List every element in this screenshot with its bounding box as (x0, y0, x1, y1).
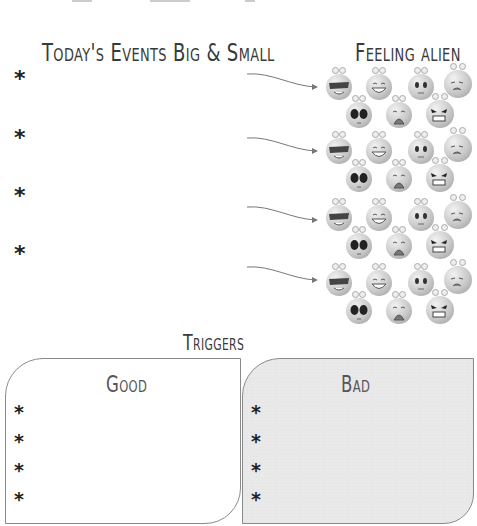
good-label: Good (106, 371, 147, 397)
alien-crying-icon[interactable] (386, 102, 412, 128)
event-bullet-4[interactable]: * (14, 243, 26, 265)
alien-angry-icon[interactable] (426, 231, 454, 259)
alien-crying-icon[interactable] (386, 233, 412, 259)
alien-sad-icon[interactable] (444, 266, 472, 294)
bad-bullet-4[interactable]: * (251, 490, 261, 509)
good-triggers-box[interactable]: Good * * * * (5, 358, 241, 524)
event-bullet-3[interactable]: * (14, 185, 26, 207)
bad-bullet-2[interactable]: * (251, 432, 261, 451)
bad-triggers-box[interactable]: Bad * * * * (242, 358, 474, 524)
alien-feelings-row-1 (320, 68, 477, 128)
events-title: Today's Events Big & Small (42, 38, 275, 67)
alien-cool-icon[interactable] (326, 74, 352, 100)
alien-dark-eyed-icon[interactable] (346, 102, 372, 128)
alien-laughing-icon[interactable] (366, 270, 392, 296)
good-bullet-4[interactable]: * (14, 490, 24, 509)
alien-surprised-icon[interactable] (408, 270, 434, 296)
top-cropped-text (0, 0, 477, 5)
alien-surprised-icon[interactable] (408, 74, 434, 100)
arrow-right-icon (246, 134, 322, 156)
alien-feelings-row-4 (320, 264, 477, 324)
alien-cool-icon[interactable] (326, 270, 352, 296)
alien-angry-icon[interactable] (426, 164, 454, 192)
arrow-right-icon (246, 203, 322, 225)
alien-crying-icon[interactable] (386, 166, 412, 192)
arrow-right-icon (246, 263, 322, 285)
alien-crying-icon[interactable] (386, 298, 412, 324)
good-bullet-3[interactable]: * (14, 461, 24, 480)
alien-dark-eyed-icon[interactable] (346, 233, 372, 259)
alien-feelings-row-2 (320, 132, 477, 192)
alien-dark-eyed-icon[interactable] (346, 298, 372, 324)
arrow-right-icon (246, 70, 322, 92)
alien-surprised-icon[interactable] (408, 205, 434, 231)
bad-bullet-1[interactable]: * (251, 403, 261, 422)
bad-bullet-3[interactable]: * (251, 461, 261, 480)
triggers-title: Triggers (183, 330, 244, 355)
alien-dark-eyed-icon[interactable] (346, 166, 372, 192)
alien-cool-icon[interactable] (326, 205, 352, 231)
alien-laughing-icon[interactable] (366, 74, 392, 100)
alien-sad-icon[interactable] (444, 201, 472, 229)
good-bullet-1[interactable]: * (14, 403, 24, 422)
alien-laughing-icon[interactable] (366, 205, 392, 231)
alien-sad-icon[interactable] (444, 134, 472, 162)
event-bullet-1[interactable]: * (14, 68, 26, 90)
alien-cool-icon[interactable] (326, 138, 352, 164)
feelings-title: Feeling alien (355, 38, 461, 67)
alien-laughing-icon[interactable] (366, 138, 392, 164)
alien-angry-icon[interactable] (426, 296, 454, 324)
alien-sad-icon[interactable] (444, 70, 472, 98)
event-bullet-2[interactable]: * (14, 127, 26, 149)
good-bullet-2[interactable]: * (14, 432, 24, 451)
alien-feelings-row-3 (320, 199, 477, 259)
alien-surprised-icon[interactable] (408, 138, 434, 164)
bad-label: Bad (341, 371, 370, 397)
alien-angry-icon[interactable] (426, 100, 454, 128)
